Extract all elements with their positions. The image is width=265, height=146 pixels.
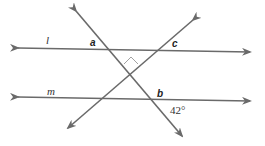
right-angle-marker <box>124 57 138 64</box>
label-m: m <box>47 85 55 97</box>
transversal-1 <box>76 11 182 136</box>
label-b: b <box>157 88 163 99</box>
label-l: l <box>46 34 49 46</box>
label-angle-42: 42° <box>170 104 185 116</box>
line-l <box>18 48 250 52</box>
label-c: c <box>172 38 178 49</box>
label-a: a <box>90 37 96 48</box>
parallel-lines-diagram: l a c m b 42° <box>0 0 265 146</box>
line-m <box>18 97 250 101</box>
